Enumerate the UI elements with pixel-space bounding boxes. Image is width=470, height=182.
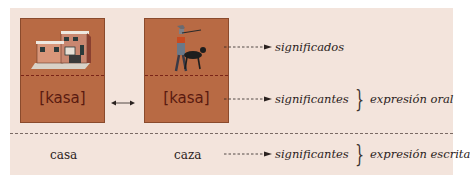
hunter-icon	[149, 23, 224, 73]
row-label: significantes	[275, 92, 349, 106]
dashed-arrow-icon	[224, 95, 272, 103]
row-group: expresión oral	[370, 92, 453, 106]
dashed-arrow-icon	[224, 43, 272, 51]
row-significantes-escrita: significantes } expresión escrita	[224, 144, 470, 164]
pronunciation-label: [kasa]	[145, 89, 228, 107]
written-word-caza: caza	[174, 148, 201, 162]
dashed-arrow-icon	[224, 150, 272, 158]
pronunciation-label: [kasa]	[21, 89, 104, 107]
box-casa: [kasa]	[20, 18, 105, 123]
row-group: expresión escrita	[370, 147, 470, 161]
brace-icon: }	[355, 144, 364, 164]
divider-line	[145, 75, 228, 76]
row-significados: significados	[224, 40, 344, 54]
row-label: significantes	[275, 147, 349, 161]
row-significantes-oral: significantes } expresión oral	[224, 89, 454, 109]
house-icon	[25, 23, 100, 73]
diagram-panel: [kasa] [kasa] significados	[10, 8, 453, 175]
bidirectional-arrow-icon	[111, 99, 135, 107]
divider-line	[21, 75, 104, 76]
separator-line	[10, 133, 453, 134]
written-word-casa: casa	[50, 148, 77, 162]
row-label: significados	[275, 40, 344, 54]
box-caza: [kasa]	[144, 18, 229, 123]
brace-icon: }	[355, 89, 364, 109]
